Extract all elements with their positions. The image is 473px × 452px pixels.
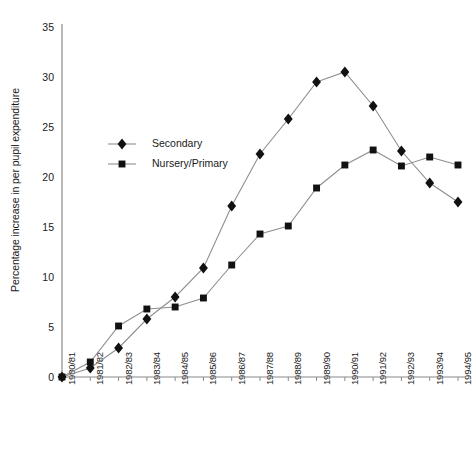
data-point-marker bbox=[115, 323, 122, 330]
series-line-2 bbox=[62, 150, 458, 377]
data-point-marker bbox=[370, 147, 377, 154]
axis-lines bbox=[62, 24, 466, 381]
data-point-marker bbox=[426, 154, 433, 161]
data-point-marker bbox=[257, 231, 264, 238]
legend-item-label: Secondary bbox=[152, 137, 202, 149]
data-point-marker bbox=[454, 197, 463, 208]
legend-item-label: Nursery/Primary bbox=[152, 157, 228, 169]
data-point-marker bbox=[87, 359, 94, 366]
square-marker-icon bbox=[119, 161, 126, 168]
data-point-marker bbox=[341, 162, 348, 169]
data-point-marker bbox=[227, 201, 236, 212]
plot-area bbox=[0, 0, 473, 452]
series-line-1 bbox=[62, 72, 458, 377]
data-point-marker bbox=[200, 295, 207, 302]
data-point-marker bbox=[455, 162, 462, 169]
diamond-marker-icon bbox=[118, 139, 127, 150]
series-lines bbox=[58, 67, 463, 383]
legend bbox=[108, 139, 136, 168]
data-point-marker bbox=[285, 223, 292, 230]
data-point-marker bbox=[228, 262, 235, 269]
data-point-marker bbox=[143, 306, 150, 313]
data-point-marker bbox=[398, 163, 405, 170]
data-point-marker bbox=[313, 185, 320, 192]
data-point-marker bbox=[59, 374, 66, 381]
data-point-marker bbox=[172, 304, 179, 311]
chart-container: Percentage increase in per pupil expendi… bbox=[0, 0, 473, 452]
